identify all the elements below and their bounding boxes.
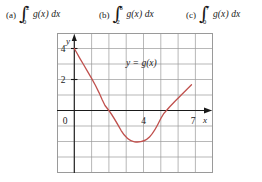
problem-label-a: (a) <box>6 11 16 20</box>
x-tick-label-7: 7 <box>191 116 196 126</box>
curve-label: y = g(x) <box>125 58 157 69</box>
integral-symbol-b: ∫ 6 2 <box>113 5 126 25</box>
graph-canvas: y x 2 4 0 4 7 y = g(x) <box>57 33 213 173</box>
y-tick-label-2: 2 <box>61 75 66 85</box>
integral-lower-limit-a: 0 <box>23 19 26 26</box>
integrand-expression-b: g(x) dx <box>127 10 154 20</box>
integrand-expression-a: g(x) dx <box>33 10 60 20</box>
integral-upper-limit-b: 6 <box>120 5 123 12</box>
integrand-expression-c: g(x) dx <box>213 10 240 20</box>
integral-upper-limit-c: 7 <box>206 5 209 12</box>
integral-symbol-c: ∫ 7 0 <box>199 5 212 25</box>
problem-label-c: (c) <box>186 11 196 20</box>
plot-frame <box>58 34 213 173</box>
problem-item-b: (b) ∫ 6 2 g(x) dx <box>99 4 154 26</box>
problem-label-b: (b) <box>99 11 110 20</box>
integral-upper-limit-a: 2 <box>26 5 29 12</box>
y-tick-label-4: 4 <box>61 44 66 54</box>
function-graph: y x 2 4 0 4 7 y = g(x) <box>57 33 213 173</box>
problem-item-c: (c) ∫ 7 0 g(x) dx <box>186 4 240 26</box>
integral-lower-limit-b: 2 <box>117 19 120 26</box>
integral-symbol-a: ∫ 2 0 <box>19 5 32 25</box>
x-tick-label-4: 4 <box>141 116 146 126</box>
problem-list: (a) ∫ 2 0 g(x) dx (b) ∫ 6 2 g(x) dx (c) … <box>0 0 262 28</box>
x-tick-label-0: 0 <box>63 116 68 126</box>
y-axis-label: y <box>65 36 70 46</box>
integral-lower-limit-c: 0 <box>203 19 206 26</box>
problem-item-a: (a) ∫ 2 0 g(x) dx <box>6 4 60 26</box>
x-axis-label: x <box>202 115 207 125</box>
